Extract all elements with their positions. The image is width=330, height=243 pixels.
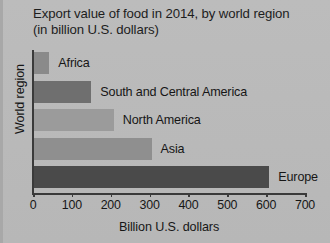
bar-africa[interactable] [33,52,49,74]
bar-label: North America [123,113,201,127]
bar-row: Europe [33,166,318,188]
bar-row: Asia [33,138,184,160]
x-tick-label: 0 [30,198,37,212]
x-tick-label: 100 [62,198,82,212]
x-tick-mark [150,193,152,197]
bar-label: Asia [161,142,185,156]
x-tick-label: 500 [217,198,237,212]
x-tick-mark [305,193,307,197]
bar-label: Europe [278,170,318,184]
bar-label: South and Central America [100,85,247,99]
x-tick-mark [72,193,74,197]
chart-title: Export value of food in 2014, by world r… [33,6,305,37]
x-tick-label: 600 [256,198,276,212]
plot-area: AfricaSouth and Central AmericaNorth Ame… [33,50,305,193]
x-tick-mark [33,193,35,197]
bar-north-america[interactable] [33,109,114,131]
x-axis-title: Billion U.S. dollars [33,220,305,234]
bar-label: Africa [58,56,89,70]
bar-south-and-central-america[interactable] [33,81,91,103]
y-axis-title: World region [13,51,27,147]
x-tick-label: 700 [295,198,315,212]
bar-row: Africa [33,52,90,74]
x-tick-mark [111,193,113,197]
x-tick-label: 300 [140,198,160,212]
y-axis-line [32,50,34,195]
x-tick-label: 200 [101,198,121,212]
x-tick-mark [266,193,268,197]
bar-row: South and Central America [33,81,247,103]
chart-card: Export value of food in 2014, by world r… [0,0,330,243]
bar-row: North America [33,109,201,131]
x-tick-mark [227,193,229,197]
x-tick-mark [188,193,190,197]
x-tick-label: 400 [178,198,198,212]
bar-europe[interactable] [33,166,269,188]
bar-asia[interactable] [33,138,152,160]
x-axis-line [33,193,305,195]
